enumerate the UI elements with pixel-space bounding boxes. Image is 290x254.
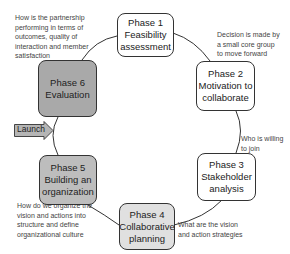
- phase-6-box: Phase 6 Evaluation: [38, 60, 97, 117]
- phase-label: Phase 3: [201, 159, 252, 171]
- phase-label: Phase 2: [199, 68, 253, 80]
- phase-label: collaborate: [199, 92, 253, 104]
- phase-label: Phase 6: [45, 77, 89, 89]
- phase-label: organization: [42, 186, 94, 198]
- note-line: interaction and member: [15, 42, 90, 52]
- phase-label: Motivation to: [199, 80, 253, 92]
- phase-label: Stakeholder: [201, 171, 252, 183]
- note-phase1-2: Decision is made by a small core group t…: [217, 30, 287, 59]
- note-line: organizational culture: [17, 230, 103, 240]
- phase-label: Collaborative: [119, 221, 174, 233]
- note-line: vision and actions into: [17, 211, 103, 221]
- note-line: What are the vision: [178, 220, 258, 230]
- note-line: structure and define: [17, 220, 103, 230]
- phase-label: Feasibility: [120, 29, 171, 41]
- phase-3-box: Phase 3 Stakeholder analysis: [197, 153, 256, 201]
- phase-label: Phase 4: [119, 209, 174, 221]
- phase-label: Phase 5: [42, 162, 94, 174]
- note-line: outcomes, quality of: [15, 32, 90, 42]
- phase-label: Evaluation: [45, 89, 89, 101]
- note-line: Who is willing: [241, 134, 289, 144]
- phase-2-box: Phase 2 Motivation to collaborate: [196, 61, 255, 111]
- note-line: How is the partnership: [15, 13, 90, 23]
- phase-label: analysis: [201, 183, 252, 195]
- note-line: to join: [241, 144, 289, 154]
- phase-label: Building an: [42, 174, 94, 186]
- phase-label: assessment: [120, 41, 171, 53]
- launch-arrow: Launch: [14, 121, 53, 139]
- launch-label: Launch: [17, 124, 45, 134]
- connector-2-3: [236, 111, 241, 153]
- connector-1-2: [173, 33, 210, 61]
- note-phase6: How is the partnership performing in ter…: [15, 13, 90, 61]
- note-phase2-3: Who is willing to join: [241, 134, 289, 153]
- note-line: Decision is made by: [217, 30, 287, 40]
- phase-label: Phase 1: [120, 17, 171, 29]
- note-phase5: How do we organize the vision and action…: [17, 201, 103, 239]
- note-line: performing in terms of: [15, 23, 90, 33]
- note-phase4: What are the vision and action strategie…: [178, 220, 258, 239]
- note-line: to move forward: [217, 49, 287, 59]
- phase-4-box: Phase 4 Collaborative planning: [119, 203, 175, 250]
- phase-5-box: Phase 5 Building an organization: [39, 155, 97, 205]
- phase-label: planning: [119, 233, 174, 245]
- phase-1-box: Phase 1 Feasibility assessment: [117, 13, 174, 57]
- note-line: and action strategies: [178, 230, 258, 240]
- note-line: a small core group: [217, 40, 287, 50]
